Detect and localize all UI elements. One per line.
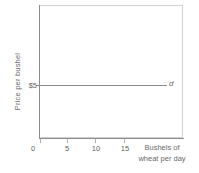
y-axis-line <box>39 5 40 139</box>
plot-area <box>39 5 183 138</box>
x-tick-label-5: 5 <box>58 144 76 154</box>
y-tick-label-price: $5 <box>22 81 37 90</box>
x-tick-label-10: 10 <box>87 144 105 154</box>
x-tick-mark-5 <box>67 139 68 143</box>
x-tick-mark-10 <box>95 139 96 143</box>
demand-curve-line <box>36 85 167 86</box>
demand-curve-label: d <box>169 79 173 89</box>
y-axis-title: Price per bushel <box>13 34 22 130</box>
x-axis-title-line1: Bushels of <box>126 143 198 154</box>
x-tick-mark-0 <box>40 139 41 143</box>
demand-curve-chart: d $5 Price per bushel 0 5 10 15 Bushels … <box>0 0 199 173</box>
x-axis-title-line2: wheat per day <box>126 154 198 165</box>
x-axis-title: Bushels of wheat per day <box>126 143 198 164</box>
x-tick-mark-15 <box>124 139 125 143</box>
x-axis-line <box>39 138 184 139</box>
x-tick-label-0: 0 <box>24 144 42 154</box>
